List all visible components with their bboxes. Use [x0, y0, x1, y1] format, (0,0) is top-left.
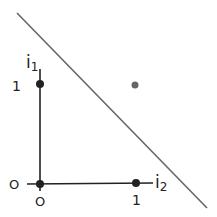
- point-0-0: [36, 180, 44, 188]
- separating-line: [17, 13, 207, 208]
- tick-x-zero: O: [35, 194, 45, 209]
- point-1-1: [132, 82, 139, 89]
- tick-y-zero: O: [9, 177, 19, 192]
- axis-i1-label: i1: [26, 52, 38, 74]
- point-1-0: [132, 179, 140, 187]
- tick-y-one: 1: [12, 78, 21, 94]
- xor-diagram: i1 i2 1 O O 1: [0, 0, 217, 217]
- tick-x-one: 1: [132, 192, 141, 208]
- point-0-1: [36, 80, 44, 88]
- axis-i2-label: i2: [155, 172, 167, 194]
